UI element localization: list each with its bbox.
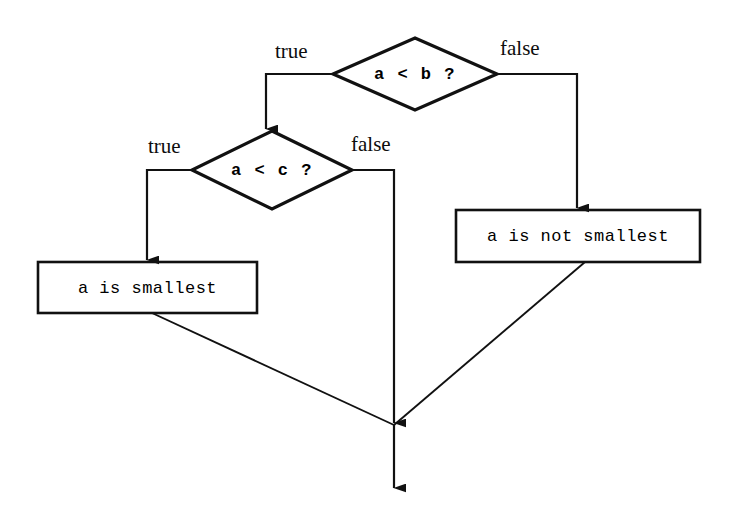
edge-b-true — [266, 74, 333, 129]
flowchart-canvas: a < b ? a < c ? a is smallest a is not s… — [0, 0, 738, 507]
edge-label-b-true: true — [275, 41, 308, 62]
edge-label-b-false: false — [500, 38, 540, 59]
decision-a-lt-b-label: a < b ? — [334, 66, 496, 83]
edge-c-false — [352, 170, 394, 423]
edge-c-true — [147, 170, 192, 260]
edge-label-c-true: true — [148, 136, 181, 157]
edge-label-c-false: false — [351, 134, 391, 155]
decision-a-lt-c-label: a < c ? — [192, 162, 352, 179]
edge-not-smallest-to-junction — [394, 262, 585, 425]
result-a-smallest-label: a is smallest — [38, 280, 257, 297]
edge-b-false — [497, 74, 577, 208]
edge-smallest-to-junction — [152, 313, 394, 425]
result-a-not-smallest-label: a is not smallest — [456, 228, 700, 245]
